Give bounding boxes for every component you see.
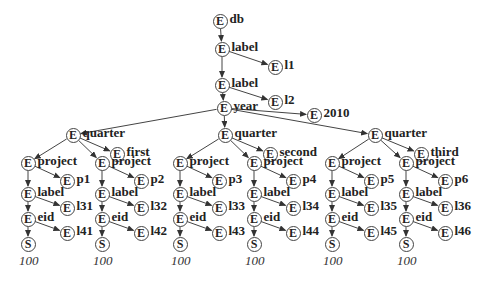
element-node-icon: E <box>217 101 232 116</box>
node-label: eid <box>264 210 281 224</box>
element-node-icon: E <box>268 95 283 110</box>
element-node-icon: E <box>21 187 36 202</box>
node-label: project <box>38 154 77 168</box>
node-label: l2 <box>285 93 295 107</box>
element-node-icon: E <box>438 226 453 241</box>
node-label: p6 <box>455 172 469 186</box>
node-label: year <box>234 99 259 113</box>
node-label: eid <box>416 210 433 224</box>
string-value: 100 <box>323 254 343 268</box>
element-node-icon: E <box>399 156 414 171</box>
element-node-icon: E <box>215 78 230 93</box>
edge-q1-p2 <box>78 140 96 157</box>
node-label: p4 <box>303 172 317 186</box>
node-label: project <box>264 154 303 168</box>
string-value: 100 <box>19 254 39 268</box>
string-node-icon: S <box>247 237 262 252</box>
element-node-icon: E <box>212 201 227 216</box>
element-node-icon: E <box>368 128 383 143</box>
string-value: 100 <box>93 254 113 268</box>
element-node-icon: E <box>213 14 228 29</box>
string-node-icon: S <box>21 237 36 252</box>
node-label: eid <box>112 210 129 224</box>
string-node-icon: S <box>95 237 110 252</box>
node-label: l43 <box>229 224 246 238</box>
node-label: quarter <box>385 126 428 140</box>
node-label: l35 <box>381 199 398 213</box>
node-label: quarter <box>235 126 278 140</box>
element-node-icon: E <box>268 60 283 75</box>
element-node-icon: E <box>438 201 453 216</box>
node-label: l45 <box>381 224 398 238</box>
element-node-icon: E <box>364 226 379 241</box>
element-node-icon: E <box>215 42 230 57</box>
node-label: label <box>232 40 259 54</box>
element-node-icon: E <box>247 187 262 202</box>
element-node-icon: E <box>95 156 110 171</box>
node-label: project <box>112 154 151 168</box>
element-node-icon: E <box>21 212 36 227</box>
element-node-icon: E <box>212 226 227 241</box>
element-node-icon: E <box>95 212 110 227</box>
element-node-icon: E <box>325 212 340 227</box>
element-node-icon: E <box>134 226 149 241</box>
node-label: label <box>190 185 217 199</box>
node-label: eid <box>342 210 359 224</box>
element-node-icon: E <box>173 187 188 202</box>
element-node-icon: E <box>218 128 233 143</box>
string-node-icon: S <box>325 237 340 252</box>
element-node-icon: E <box>134 201 149 216</box>
element-node-icon: E <box>286 226 301 241</box>
string-node-icon: S <box>399 237 414 252</box>
node-label: quarter <box>83 126 126 140</box>
element-node-icon: E <box>247 212 262 227</box>
node-label: l1 <box>285 58 295 72</box>
xml-tree-diagram: EdbElabelEl1ElabelEl2EyearE2010EquarterE… <box>0 0 484 282</box>
element-node-icon: E <box>399 187 414 202</box>
string-value: 100 <box>245 254 265 268</box>
node-label: project <box>190 154 229 168</box>
node-label: p2 <box>151 172 165 186</box>
edge-q2-p4 <box>230 140 248 157</box>
element-node-icon: E <box>60 226 75 241</box>
element-node-icon: E <box>173 156 188 171</box>
node-label: l32 <box>151 199 168 213</box>
element-node-icon: E <box>399 212 414 227</box>
node-label: l46 <box>455 224 472 238</box>
element-node-icon: E <box>21 156 36 171</box>
node-label: label <box>232 76 259 90</box>
node-label: l44 <box>303 224 320 238</box>
element-node-icon: E <box>286 201 301 216</box>
string-value: 100 <box>171 254 191 268</box>
node-label: l34 <box>303 199 320 213</box>
node-label: eid <box>190 210 207 224</box>
edge-n0-n1 <box>221 28 222 41</box>
node-label: l42 <box>151 224 168 238</box>
node-label: label <box>38 185 65 199</box>
node-label: label <box>342 185 369 199</box>
node-label: eid <box>38 210 55 224</box>
element-node-icon: E <box>173 212 188 227</box>
node-label: l36 <box>455 199 472 213</box>
element-node-icon: E <box>325 187 340 202</box>
element-node-icon: E <box>95 187 110 202</box>
string-node-icon: S <box>173 237 188 252</box>
node-label: label <box>264 185 291 199</box>
node-label: l41 <box>77 224 94 238</box>
node-label: project <box>416 154 455 168</box>
element-node-icon: E <box>60 201 75 216</box>
node-label: project <box>342 154 381 168</box>
node-label: l31 <box>77 199 94 213</box>
element-node-icon: E <box>66 128 81 143</box>
edge-n3-n5 <box>223 92 224 100</box>
element-node-icon: E <box>247 156 262 171</box>
node-label: p5 <box>381 172 395 186</box>
node-label: 2010 <box>324 106 350 120</box>
element-node-icon: E <box>364 201 379 216</box>
node-label: p3 <box>229 172 243 186</box>
element-node-icon: E <box>325 156 340 171</box>
string-value: 100 <box>397 254 417 268</box>
node-label: label <box>112 185 139 199</box>
node-label: db <box>230 12 244 26</box>
element-node-icon: E <box>307 108 322 123</box>
